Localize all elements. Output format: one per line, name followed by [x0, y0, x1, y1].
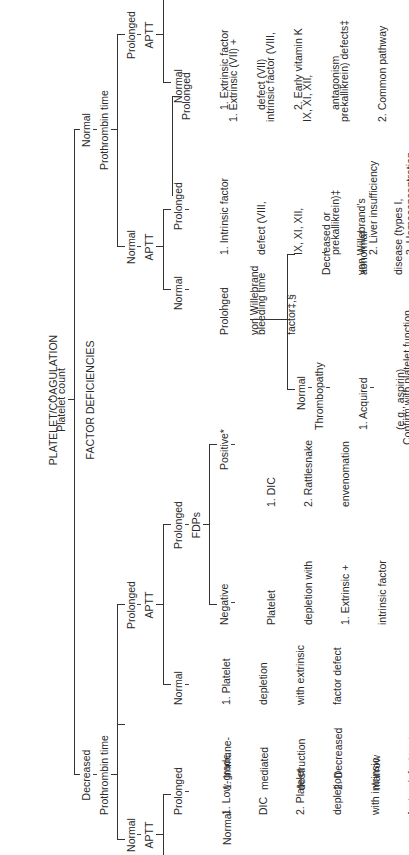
branch-line: [163, 835, 164, 855]
note-confirm-platelet-function: Confirm with platelet function tests (ag…: [376, 310, 409, 445]
connector: [137, 246, 141, 247]
node-normal-aptt: Normal: [172, 671, 184, 705]
connector: [231, 444, 235, 445]
node-negative-fdps: Negative: [218, 584, 230, 625]
connector: [156, 604, 163, 605]
causes-list-extrinsic-defect: 1. Extrinsic factor defect (VII) 2. Earl…: [193, 28, 367, 110]
diagram-title: PLATELET/COAGULATION FACTOR DEFICIENCIES: [22, 325, 121, 475]
branch-line: [163, 0, 164, 83]
branch-line: [209, 604, 217, 605]
node-prolonged-pt: Prolonged: [125, 565, 137, 645]
node-prolonged-aptt: Prolonged: [172, 767, 184, 815]
branch-line: [209, 445, 210, 605]
branch-line: [163, 209, 171, 210]
branch-line: [117, 34, 125, 35]
branch-line: [117, 246, 125, 247]
branch-line: [163, 794, 171, 795]
node-prothrombin-time-normal: Prothrombin time: [98, 70, 110, 190]
node-normal-pt: Normal: [125, 795, 137, 855]
node-thrombopathy: Thrombopathy: [313, 362, 325, 430]
connector: [48, 399, 52, 400]
node-vwf-normal: Normal: [295, 376, 307, 410]
node-decreased: Decreased: [80, 735, 92, 815]
connector: [185, 684, 189, 685]
node-prolonged-aptt: Prolonged: [172, 182, 184, 230]
branch-line: [163, 289, 171, 290]
connector: [137, 834, 141, 835]
branch-line: [117, 725, 118, 840]
connector: [185, 209, 189, 210]
causes-list-low-grade-dic: 1. Low-grade DIC 2. Platelet depletion w…: [195, 754, 409, 815]
node-aptt: APTT: [143, 0, 155, 75]
connector: [370, 387, 374, 388]
connector: [93, 774, 97, 775]
branch-line: [117, 839, 125, 840]
node-positive-fdps: Positive*: [218, 429, 230, 470]
branch-line: [163, 684, 171, 685]
node-von-willebrand-factor: von Willebrand factor‡,§: [223, 266, 322, 335]
connector: [250, 319, 287, 320]
node-aptt: APTT: [143, 207, 155, 287]
connector: [185, 791, 189, 792]
node-prolonged-pt: Prolonged: [125, 0, 137, 75]
node-normal-pt: Normal: [125, 207, 137, 287]
connector: [231, 602, 235, 603]
connector: [185, 82, 189, 83]
node-fdps: FDPs: [190, 485, 202, 565]
branch-line: [163, 525, 164, 685]
connector: [185, 289, 189, 290]
causes-list-intrinsic-defect: 1. Intrinsic factor defect (VIII, IX, XI…: [193, 152, 409, 255]
branch-line: [74, 130, 75, 775]
branch-line: [287, 389, 295, 390]
branch-line: [117, 604, 125, 605]
connector: [156, 34, 163, 35]
node-prothrombin-time-decreased: Prothrombin time: [98, 715, 110, 835]
connector: [156, 834, 163, 835]
connector: [308, 387, 312, 388]
branch-line: [163, 210, 164, 290]
node-aptt: APTT: [143, 795, 155, 855]
branch-line: [117, 724, 125, 725]
node-normal: Normal: [80, 90, 92, 170]
branch-line: [117, 35, 118, 130]
causes-list-positive-fdps: 1. DIC 2. Rattlesnake envenomation: [240, 440, 376, 507]
flowchart-diagram: PLATELET/COAGULATION FACTOR DEFICIENCIES…: [0, 0, 409, 855]
connector: [93, 129, 97, 130]
title-line-2: FACTOR DEFICIENCIES: [84, 325, 96, 475]
node-normal-aptt: Normal: [172, 69, 184, 103]
branch-line: [287, 255, 288, 390]
connector: [326, 387, 330, 388]
branch-line: [117, 130, 118, 247]
branch-line: [209, 444, 217, 445]
causes-list-extrinsic-depletion: 1. Platelet depletion with extrinsic fac…: [195, 645, 369, 705]
branch-line: [163, 795, 164, 835]
root-node-platelet-count: Platelet count: [55, 350, 67, 450]
node-normal-aptt: Normal: [172, 276, 184, 310]
branch-line: [163, 82, 171, 83]
branch-line: [117, 605, 118, 725]
connector: [185, 524, 189, 525]
node-aptt: APTT: [143, 565, 155, 645]
connector: [137, 604, 141, 605]
causes-list-negative-fdps: Platelet depletion with 1. Extrinsic + i…: [240, 504, 409, 625]
branch-line: [163, 524, 171, 525]
connector: [156, 246, 163, 247]
node-prolonged-aptt: Prolonged: [172, 485, 184, 565]
connector: [137, 34, 141, 35]
